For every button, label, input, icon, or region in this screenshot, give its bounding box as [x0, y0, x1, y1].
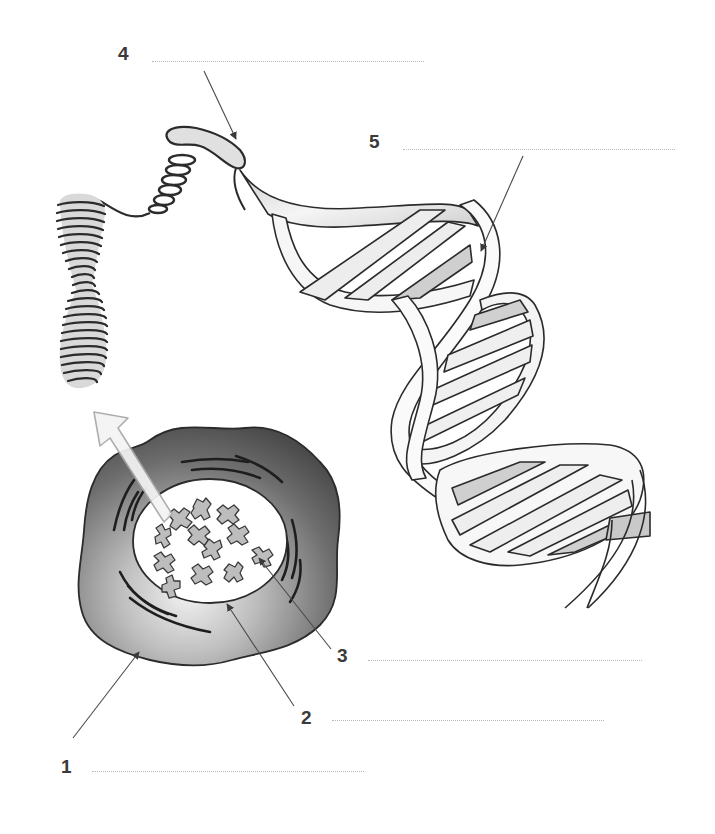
answer-blank-4[interactable]: [152, 61, 424, 62]
pointer-1: [73, 652, 139, 738]
cell: [79, 412, 340, 665]
pointer-4: [204, 71, 236, 139]
label-number-1: 1: [61, 757, 72, 776]
pointer-5: [481, 156, 523, 251]
answer-blank-5[interactable]: [403, 149, 675, 150]
condensed-chromosome: [57, 193, 107, 388]
label-number-5: 5: [369, 132, 380, 151]
answer-blank-2[interactable]: [332, 720, 604, 721]
chromosome: [168, 508, 192, 530]
diagram-svg: [0, 0, 715, 834]
answer-blank-1[interactable]: [92, 771, 364, 772]
label-number-3: 3: [337, 646, 348, 665]
diagram-canvas: 4 5 3 2 1: [0, 0, 715, 834]
fiber-spring-coil: [149, 155, 195, 213]
answer-blank-3[interactable]: [368, 660, 642, 661]
label-number-2: 2: [301, 708, 312, 727]
label-number-4: 4: [118, 44, 129, 63]
